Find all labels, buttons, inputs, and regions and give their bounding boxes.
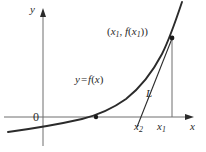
y-axis-label: y <box>30 4 35 15</box>
curve-equals-sign: = <box>80 73 88 85</box>
y-axis-arrow-icon <box>40 8 46 17</box>
curve-equation-label: y=f(x) <box>75 74 103 85</box>
tangent-line-label: L <box>146 88 152 99</box>
root-marker <box>94 115 98 119</box>
x-axis-label: x <box>190 121 195 132</box>
point-coordinate-label: (x1, f(x1)) <box>107 26 148 39</box>
x2-subscript: 2 <box>139 125 143 134</box>
x1-subscript: 1 <box>162 125 166 134</box>
math-figure: y x 0 (x1, f(x1)) y=f(x) L x2 x1 <box>0 0 206 152</box>
origin-label: 0 <box>33 111 39 123</box>
curve-close-paren: ) <box>100 73 104 85</box>
point-close-paren: ) <box>144 25 148 37</box>
point-marker-x1 <box>170 36 175 41</box>
y-axis <box>40 8 46 146</box>
tangent-line <box>137 36 173 127</box>
x2-tick-label: x2 <box>134 121 143 134</box>
x1-tick-label: x1 <box>157 121 166 134</box>
